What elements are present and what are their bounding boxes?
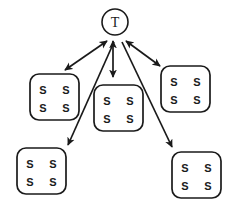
student-label: S: [204, 180, 211, 192]
student-label: S: [193, 94, 200, 106]
student-group-left-lower-box: [17, 148, 66, 194]
student-label: S: [39, 102, 46, 114]
student-label: S: [126, 113, 133, 125]
student-label: S: [170, 94, 177, 106]
student-label: S: [103, 113, 110, 125]
student-label: S: [26, 158, 33, 170]
teacher-node[interactable]: T: [102, 9, 128, 35]
node-layer: T S S S S S S S S S S S S: [17, 9, 221, 198]
student-group-left-upper-box: [30, 74, 79, 120]
edge-teacher-to-left-upper: [65, 41, 107, 70]
diagram-canvas: T S S S S S S S S S S S S: [0, 0, 227, 207]
student-label: S: [193, 76, 200, 88]
diagram-svg: T S S S S S S S S S S S S: [0, 0, 227, 207]
student-group-right-lower[interactable]: S S S S: [172, 152, 221, 198]
student-group-left-upper[interactable]: S S S S: [30, 74, 79, 120]
student-label: S: [49, 176, 56, 188]
student-label: S: [181, 180, 188, 192]
student-label: S: [26, 176, 33, 188]
student-label: S: [49, 158, 56, 170]
student-group-center[interactable]: S S S S: [94, 85, 143, 131]
student-group-right-lower-box: [172, 152, 221, 198]
teacher-node-label: T: [111, 15, 120, 30]
student-label: S: [181, 162, 188, 174]
student-label: S: [62, 102, 69, 114]
student-label: S: [170, 76, 177, 88]
student-group-center-box: [94, 85, 143, 131]
student-label: S: [126, 95, 133, 107]
student-label: S: [39, 84, 46, 96]
student-group-right-upper[interactable]: S S S S: [161, 66, 210, 112]
student-label: S: [62, 84, 69, 96]
student-group-right-upper-box: [161, 66, 210, 112]
student-label: S: [204, 162, 211, 174]
student-group-left-lower[interactable]: S S S S: [17, 148, 66, 194]
student-label: S: [103, 95, 110, 107]
